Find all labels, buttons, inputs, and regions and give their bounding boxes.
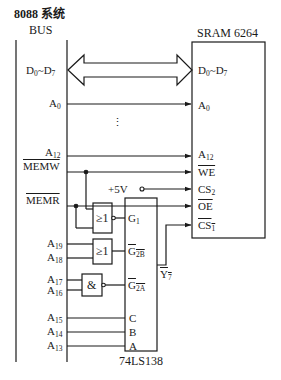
sram-pin-cs1: CS1	[198, 219, 215, 231]
data-bus-arrow	[68, 55, 192, 85]
decoder-pin-g2b: G2B	[128, 245, 145, 257]
sram-pin-a0: A0	[198, 99, 210, 111]
decoder-pin-g1: G1	[128, 212, 140, 224]
decoder-pin-b: B	[129, 326, 136, 338]
bus-label-a13: A13	[47, 339, 62, 351]
bus-label-a19: A19	[47, 237, 62, 249]
bus-label-a18: A18	[47, 251, 62, 263]
ellipsis: ⋮	[112, 116, 123, 128]
bus-label: BUS	[29, 24, 52, 36]
decoder-pin-c: C	[129, 312, 136, 324]
system-title: 8088 系统	[14, 8, 65, 20]
or-gate-2-symbol: ≥1	[96, 245, 109, 257]
bus-label-memw: MEMW	[23, 160, 60, 172]
bus-label-a15: A15	[47, 311, 62, 323]
sram-pin-data: D0~D7	[198, 64, 227, 76]
nand-gate-symbol: &	[87, 279, 96, 291]
decoder-pin-g2a: G2A	[128, 279, 145, 291]
sram-title: SRAM 6264	[197, 27, 258, 39]
bus-label-data: D0~D7	[26, 64, 55, 76]
sram-pin-a12: A12	[198, 148, 213, 160]
bus-label-a16: A16	[47, 284, 62, 296]
decoder-pin-y7: Y7	[160, 268, 172, 280]
circuit-wiring	[0, 0, 281, 380]
decoder-title: 74LS138	[119, 355, 163, 367]
bus-label-memr: MEMR	[26, 194, 60, 206]
power-label: +5V	[108, 183, 128, 195]
sram-pin-we: WE	[198, 166, 215, 178]
decoder-pin-a: A	[129, 340, 137, 352]
or-gate-1-symbol: ≥1	[96, 212, 109, 224]
bus-label-a14: A14	[47, 325, 62, 337]
sram-pin-cs2: CS2	[198, 183, 215, 195]
bus-label-a0: A0	[49, 97, 61, 109]
sram-pin-oe: OE	[198, 200, 213, 212]
bus-label-a12: A12	[45, 146, 60, 158]
